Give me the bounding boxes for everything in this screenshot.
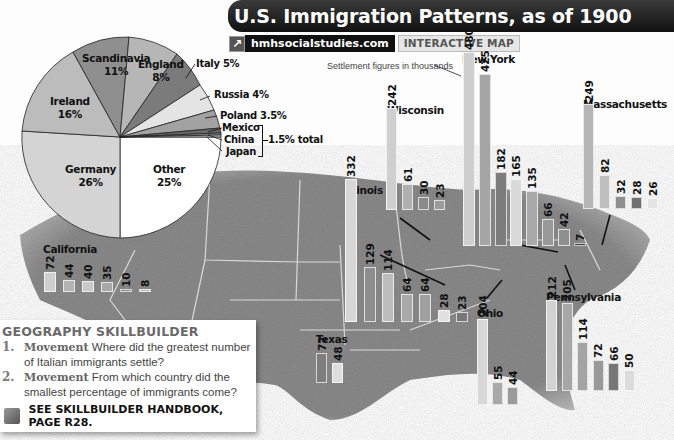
bar-value-new-york-6: 66 xyxy=(543,203,553,218)
book-icon xyxy=(4,408,20,424)
bar-value-pennsylvania-2: 205 xyxy=(562,279,572,301)
bar-value-california-4: 35 xyxy=(102,266,112,281)
external-link-icon: ↗ xyxy=(229,36,245,52)
pie-label-ireland: Ireland16% xyxy=(50,95,90,121)
bar-value-ohio-3: 44 xyxy=(508,370,518,385)
bar-wisconsin-3 xyxy=(418,197,429,210)
bar-pennsylvania-4 xyxy=(593,360,604,391)
pie-label-china: China xyxy=(224,134,254,146)
bar-california-5 xyxy=(120,289,132,292)
bar-massachusetts-1 xyxy=(583,104,594,209)
bar-value-wisconsin-3: 30 xyxy=(419,181,429,196)
bar-value-new-york-8: 7 xyxy=(575,234,585,241)
bar-new-york-1 xyxy=(463,52,475,246)
bar-value-texas-1: 72 xyxy=(317,336,327,351)
bar-value-illinois-5: 64 xyxy=(420,278,430,293)
handbook-reference[interactable]: SEE SKILLBUILDER HANDBOOK, PAGE R28. xyxy=(2,403,256,429)
bar-california-4 xyxy=(101,282,113,292)
bar-illinois-5 xyxy=(419,294,431,322)
bar-value-massachusetts-4: 28 xyxy=(632,181,642,196)
pie-label-poland: Poland 3.5% xyxy=(220,110,287,122)
bar-value-massachusetts-3: 32 xyxy=(616,179,626,194)
bar-value-illinois-2: 129 xyxy=(365,243,375,265)
bar-illinois-7 xyxy=(456,312,468,322)
bar-value-california-1: 72 xyxy=(45,255,55,270)
pie-label-combined: 1.5% total xyxy=(268,134,323,146)
bar-california-2 xyxy=(63,280,75,292)
bar-new-york-8 xyxy=(574,243,586,246)
immigration-pie-chart xyxy=(0,0,240,240)
pie-label-other: Other25% xyxy=(153,163,185,189)
bar-value-texas-2: 48 xyxy=(333,346,343,361)
geography-skillbuilder-panel: GEOGRAPHY SKILLBUILDER 1. Movement Where… xyxy=(0,320,256,432)
bar-texas-1 xyxy=(316,353,327,383)
bar-value-illinois-6: 28 xyxy=(439,293,449,308)
bar-new-york-6 xyxy=(542,219,554,246)
bar-value-california-5: 10 xyxy=(121,272,131,287)
bar-value-massachusetts-1: 249 xyxy=(584,80,594,102)
bar-value-california-3: 40 xyxy=(83,264,93,279)
bar-value-massachusetts-2: 82 xyxy=(600,158,610,173)
bar-value-wisconsin-2: 61 xyxy=(403,168,413,183)
bar-value-massachusetts-5: 26 xyxy=(648,181,658,196)
bar-california-1 xyxy=(44,272,56,292)
bar-illinois-4 xyxy=(401,294,413,322)
bar-massachusetts-2 xyxy=(599,175,610,209)
bar-value-pennsylvania-1: 212 xyxy=(547,276,557,298)
bar-value-pennsylvania-5: 66 xyxy=(609,346,619,361)
bar-value-new-york-7: 42 xyxy=(559,212,569,227)
bar-california-6 xyxy=(139,289,151,292)
bar-ohio-2 xyxy=(492,382,503,405)
bar-value-wisconsin-1: 242 xyxy=(387,84,397,106)
bar-illinois-1 xyxy=(345,179,357,322)
bar-value-illinois-4: 64 xyxy=(402,278,412,293)
bar-new-york-2 xyxy=(479,74,491,246)
bar-pennsylvania-5 xyxy=(608,363,619,391)
bar-pennsylvania-3 xyxy=(577,342,588,391)
bar-value-ohio-2: 55 xyxy=(493,365,503,380)
bar-new-york-7 xyxy=(558,229,570,246)
bar-value-illinois-7: 23 xyxy=(457,295,467,310)
bar-pennsylvania-1 xyxy=(546,300,557,391)
bar-massachusetts-3 xyxy=(615,196,626,209)
question-1: 1. Movement Where did the greatest numbe… xyxy=(2,340,256,369)
interactive-map-tag: INTERACTIVE MAP xyxy=(398,35,520,52)
bar-value-wisconsin-4: 23 xyxy=(435,184,445,199)
bar-wisconsin-1 xyxy=(386,108,397,210)
web-url[interactable]: hmhsocialstudies.com xyxy=(245,35,395,52)
bar-wisconsin-2 xyxy=(402,184,413,210)
bar-value-new-york-3: 182 xyxy=(496,148,506,170)
bar-california-3 xyxy=(82,281,94,292)
bar-value-pennsylvania-6: 50 xyxy=(624,353,634,368)
bar-texas-2 xyxy=(332,363,343,383)
state-label-massachusetts: Massachusetts xyxy=(583,98,667,110)
pie-label-japan: Japan xyxy=(226,146,256,158)
bar-new-york-3 xyxy=(495,172,507,246)
bar-ohio-1 xyxy=(477,319,488,405)
bar-value-illinois-1: 332 xyxy=(346,155,356,177)
bar-wisconsin-4 xyxy=(434,200,445,210)
pie-label-germany: Germany26% xyxy=(65,163,116,189)
bar-massachusetts-4 xyxy=(631,197,642,209)
web-link-badge[interactable]: ↗ hmhsocialstudies.com INTERACTIVE MAP xyxy=(229,35,520,52)
settlement-note: Settlement figures in thousands xyxy=(327,61,453,71)
bar-new-york-5 xyxy=(526,191,538,246)
pie-label-russia: Russia 4% xyxy=(214,89,269,101)
state-label-california: California xyxy=(43,243,97,255)
question-2: 2. Movement From which country did the s… xyxy=(2,370,256,399)
pie-label-mexico: Mexico xyxy=(222,122,260,134)
bar-illinois-6 xyxy=(438,310,450,322)
bar-value-ohio-1: 204 xyxy=(478,295,488,317)
bar-value-pennsylvania-4: 72 xyxy=(593,343,603,358)
bar-ohio-3 xyxy=(507,387,518,405)
bar-value-california-2: 44 xyxy=(64,263,74,278)
bracket xyxy=(258,125,263,157)
pie-label-england: England8% xyxy=(138,58,184,84)
skillbuilder-title: GEOGRAPHY SKILLBUILDER xyxy=(2,324,256,339)
bar-value-new-york-2: 425 xyxy=(480,50,490,72)
bar-new-york-4 xyxy=(510,179,522,246)
bar-value-new-york-4: 165 xyxy=(511,155,521,177)
bar-value-california-6: 8 xyxy=(140,280,150,287)
page-title: U.S. Immigration Patterns, as of 1900 xyxy=(228,0,674,32)
bar-pennsylvania-2 xyxy=(562,303,573,391)
